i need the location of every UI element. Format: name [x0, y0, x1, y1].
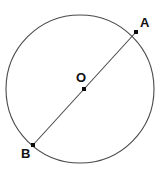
geometry-canvas: Circle with diameter AB through center O…	[0, 0, 168, 176]
circle-diagram-figure: Circle with diameter AB through center O…	[0, 0, 168, 176]
vertex-label-o: O	[76, 70, 86, 85]
vertex-label-b: B	[21, 146, 30, 161]
point-marker-o	[82, 87, 86, 91]
point-marker-a	[134, 30, 138, 34]
vertex-label-a: A	[140, 15, 150, 30]
point-marker-b	[31, 143, 35, 147]
